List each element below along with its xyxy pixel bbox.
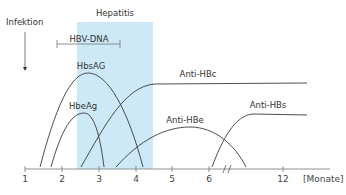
hepatitis-b-serology-diagram: Hepatitis Infektion HBV-DNA HbsAG HbeAg … [0, 0, 346, 195]
curve-anti-hbs [212, 114, 307, 167]
hbv-dna-label: HBV-DNA [69, 34, 108, 44]
tick-5: 5 [169, 174, 175, 184]
time-axis [25, 165, 330, 173]
tick-3: 3 [96, 174, 102, 184]
tick-6: 6 [206, 174, 212, 184]
infection-label: Infektion [6, 17, 43, 27]
tick-1: 1 [22, 174, 28, 184]
label-anti-hbe: Anti-HBe [166, 115, 203, 125]
hepatitis-label: Hepatitis [96, 8, 135, 18]
tick-12: 12 [277, 174, 288, 184]
tick-2: 2 [59, 174, 65, 184]
infection-arrow-icon [23, 32, 27, 71]
label-hbsag: HbsAG [77, 61, 105, 71]
label-anti-hbs: Anti-HBs [250, 100, 287, 110]
label-hbeag: HbeAg [69, 101, 97, 111]
label-anti-hbc: Anti-HBc [180, 69, 217, 79]
axis-unit-label: [Monate] [303, 174, 344, 184]
tick-4: 4 [133, 174, 139, 184]
